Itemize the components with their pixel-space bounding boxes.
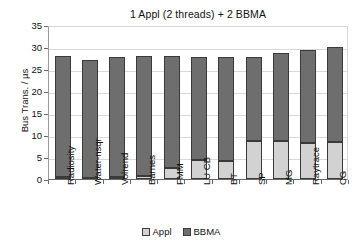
x-axis-tick-label: CG <box>338 171 348 185</box>
bar-segment-bbma[interactable] <box>191 57 207 160</box>
bar-group[interactable] <box>273 25 289 179</box>
x-axis-tick-label: LU CB <box>202 157 212 185</box>
x-axis-tick-label: Volrend <box>120 153 130 185</box>
legend-label-bbma: BBMA <box>194 226 221 237</box>
x-axis-tick-label: Water-nsqr <box>93 138 103 185</box>
y-axis-tick-label: 20 <box>16 87 42 97</box>
bar-group[interactable] <box>218 25 234 179</box>
y-axis-tick-label: 35 <box>16 21 42 31</box>
x-axis-tick-mark <box>48 180 49 184</box>
y-axis-tick-mark <box>44 92 48 93</box>
x-axis-tick-label: MG <box>284 170 294 185</box>
bar-segment-bbma[interactable] <box>327 47 343 142</box>
x-axis-tick-mark <box>157 180 158 184</box>
y-axis-tick-mark <box>44 26 48 27</box>
y-axis-tick-label: 30 <box>16 43 42 53</box>
y-axis-tick-mark <box>44 70 48 71</box>
y-axis-tick-mark <box>44 48 48 49</box>
x-axis-tick-label: Barnes <box>147 155 157 185</box>
bar-segment-bbma[interactable] <box>246 57 262 141</box>
legend-swatch-bbma-icon <box>183 228 191 236</box>
legend-item-bbma: BBMA <box>183 226 221 237</box>
x-axis-tick-label: BT <box>229 173 239 185</box>
y-axis-tick-mark <box>44 114 48 115</box>
bar-segment-bbma[interactable] <box>300 50 316 143</box>
y-axis-tick-label: 15 <box>16 109 42 119</box>
bar-group[interactable] <box>246 25 262 179</box>
bar-segment-bbma[interactable] <box>218 57 234 162</box>
chart-title: 1 Appl (2 threads) + 2 BBMA <box>48 8 348 20</box>
legend-label-appl: Appl <box>153 226 172 237</box>
y-axis-tick-label: 25 <box>16 65 42 75</box>
y-axis-tick-label: 0 <box>16 175 42 185</box>
x-axis-tick-label: Raytrace <box>311 147 321 185</box>
bar-group[interactable] <box>164 25 180 179</box>
bar-segment-bbma[interactable] <box>273 53 289 141</box>
x-axis-tick-label: FMM <box>175 163 185 185</box>
y-axis-tick-label: 10 <box>16 131 42 141</box>
legend-swatch-appl-icon <box>142 228 150 236</box>
bar-group[interactable] <box>327 25 343 179</box>
bar-segment-bbma[interactable] <box>164 56 180 168</box>
x-axis-tick-label: SP <box>257 172 267 185</box>
bar-chart: 1 Appl (2 threads) + 2 BBMA Bus Trans. /… <box>0 0 362 249</box>
y-axis-tick-mark <box>44 136 48 137</box>
y-axis-tick-mark <box>44 158 48 159</box>
legend-item-appl: Appl <box>142 226 172 237</box>
x-axis-tick-mark <box>348 180 349 184</box>
x-axis-tick-label: Radiosity <box>66 146 76 185</box>
chart-legend: Appl BBMA <box>0 226 362 237</box>
x-axis-tick-mark <box>239 180 240 184</box>
y-axis-tick-label: 5 <box>16 153 42 163</box>
bar-group[interactable] <box>191 25 207 179</box>
